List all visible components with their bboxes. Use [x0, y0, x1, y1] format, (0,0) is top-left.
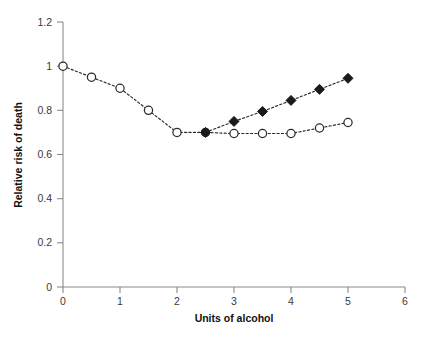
y-tick-label: 0.8 — [37, 104, 52, 116]
x-tick-group: 0123456 — [60, 287, 408, 307]
relative-risk-of-death-line-chart: 00.20.40.60.811.2 0123456 Units of alcoh… — [0, 0, 423, 337]
data-point-filled-diamond — [258, 106, 268, 116]
data-point-open-circle — [87, 73, 95, 81]
x-axis-title: Units of alcohol — [195, 312, 274, 324]
data-point-open-circle — [144, 106, 152, 114]
x-tick-label: 3 — [231, 295, 237, 307]
y-tick-label: 1.2 — [37, 16, 52, 28]
data-point-filled-diamond — [229, 116, 239, 126]
x-tick-label: 6 — [402, 295, 408, 307]
x-tick-label: 4 — [288, 295, 294, 307]
series-line-open-circle-series — [63, 66, 348, 133]
y-tick-label: 1 — [46, 60, 52, 72]
data-point-open-circle — [230, 129, 238, 137]
y-tick-label: 0.6 — [37, 148, 52, 160]
data-point-filled-diamond — [343, 73, 353, 83]
x-tick-label: 5 — [345, 295, 351, 307]
y-tick-label: 0.4 — [37, 192, 52, 204]
data-point-open-circle — [315, 124, 323, 132]
series-line-group — [63, 66, 348, 133]
x-tick-label: 0 — [60, 295, 66, 307]
data-point-open-circle — [173, 128, 181, 136]
data-point-filled-diamond — [201, 127, 211, 137]
series-marker-group — [59, 62, 353, 138]
data-point-filled-diamond — [315, 84, 325, 94]
data-point-open-circle — [287, 129, 295, 137]
data-point-open-circle — [344, 118, 352, 126]
x-tick-label: 1 — [117, 295, 123, 307]
y-tick-label: 0.2 — [37, 236, 52, 248]
x-tick-label: 2 — [174, 295, 180, 307]
chart-container: 00.20.40.60.811.2 0123456 Units of alcoh… — [0, 0, 423, 337]
data-point-open-circle — [258, 129, 266, 137]
y-tick-label: 0 — [46, 281, 52, 293]
y-axis-title: Relative risk of death — [12, 102, 24, 208]
data-point-filled-diamond — [286, 95, 296, 105]
data-point-open-circle — [59, 62, 67, 70]
series-line-filled-diamond-series — [206, 78, 349, 132]
data-point-open-circle — [116, 84, 124, 92]
y-tick-group: 00.20.40.60.811.2 — [37, 16, 63, 293]
